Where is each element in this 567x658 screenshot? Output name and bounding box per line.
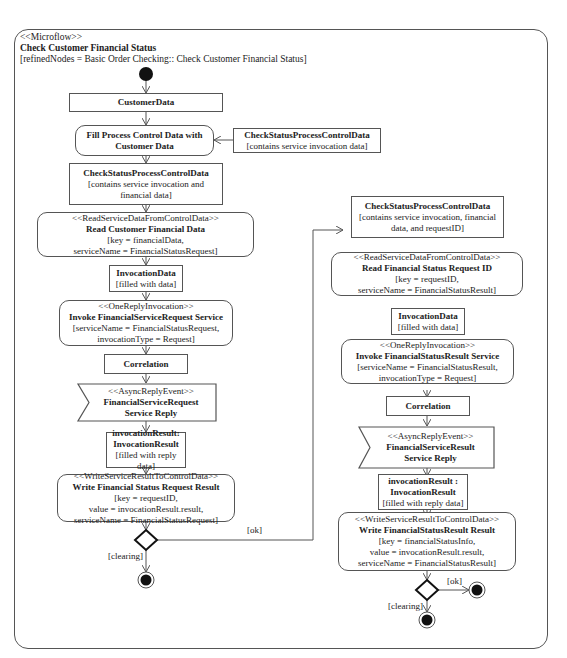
object-process-control-data-left[interactable]: CheckStatusProcessControlData [contains …	[69, 163, 223, 205]
object-side-process-control-data[interactable]: CheckStatusProcessControlData [contains …	[233, 128, 381, 153]
guard-clearing-left: [clearing]	[108, 551, 143, 561]
guard-ok-left: [ok]	[247, 525, 262, 535]
action-write-financial-status-result-result[interactable]: <<WriteServiceResultToControlData>> Writ…	[338, 512, 516, 571]
action-invoke-financial-status-result[interactable]: <<OneReplyInvocation>> Invoke FinancialS…	[341, 339, 514, 384]
guard-ok-right: [ok]	[447, 576, 462, 586]
action-correlation-right[interactable]: Correlation	[386, 396, 470, 416]
guard-clearing-right: [clearing]	[388, 601, 423, 611]
object-process-control-data-right[interactable]: CheckStatusProcessControlData [contains …	[351, 196, 504, 238]
action-correlation-left[interactable]: Correlation	[104, 354, 188, 374]
event-financial-service-request-reply[interactable]: <<AsyncReplyEvent>> FinancialServiceRequ…	[78, 384, 216, 421]
initial-node	[139, 67, 153, 81]
decision-node-left	[135, 530, 157, 550]
decision-node-right	[416, 580, 438, 600]
object-invocation-result-left[interactable]: invocationResult: InvocationResult [fill…	[106, 432, 186, 468]
action-invoke-financial-service-request[interactable]: <<OneReplyInvocation>> Invoke FinancialS…	[59, 300, 233, 346]
object-customer-data[interactable]: CustomerData	[69, 93, 223, 112]
action-write-financial-status-request-result[interactable]: <<WriteServiceResultToControlData>> Writ…	[57, 474, 235, 522]
object-invocation-data-right[interactable]: InvocationData [filled with data]	[391, 308, 465, 335]
action-read-customer-financial-data[interactable]: <<ReadServiceDataFromControlData>> Read …	[37, 212, 254, 257]
object-invocation-result-right[interactable]: invocationResult : InvocationResult [fil…	[378, 474, 468, 510]
action-read-financial-status-request-id[interactable]: <<ReadServiceDataFromControlData>> Read …	[331, 252, 523, 296]
action-fill-process-control-data[interactable]: Fill Process Control Data with Customer …	[75, 125, 214, 156]
event-financial-service-result-reply[interactable]: <<AsyncReplyEvent>> FinancialServiceResu…	[359, 427, 494, 468]
object-invocation-data-left[interactable]: InvocationData [filled with data]	[109, 265, 183, 292]
